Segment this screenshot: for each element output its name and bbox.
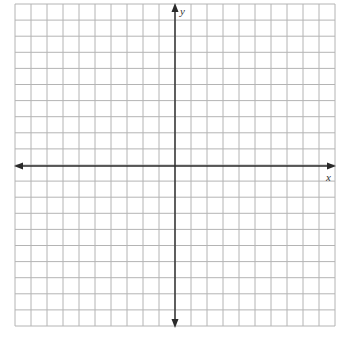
x-axis-label: x <box>325 171 331 183</box>
axes <box>14 3 336 328</box>
y-axis-label: y <box>179 5 185 17</box>
coordinate-plane: x y <box>0 0 348 337</box>
y-axis-down-arrow-icon <box>172 319 179 328</box>
